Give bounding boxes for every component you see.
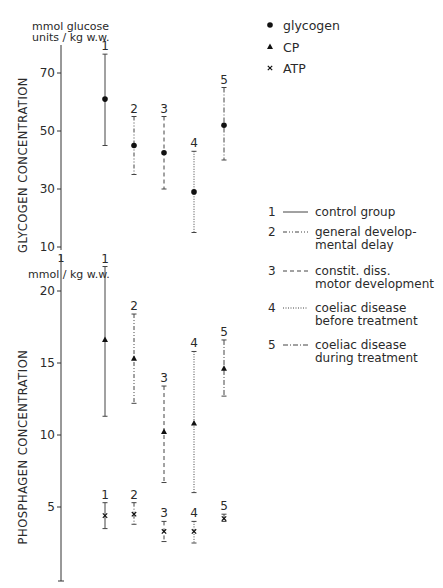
group-number-label: 3 (160, 506, 168, 520)
svg-text:constit. diss.: constit. diss. (315, 264, 390, 278)
svg-text:motor development: motor development (315, 277, 434, 291)
atp-point-group-5: 5 (220, 499, 228, 521)
glycogen-point-group-1: 1 (101, 39, 109, 145)
group-number-label: 5 (220, 325, 228, 339)
phosphagen-unit: mmol / kg w.w. (28, 268, 110, 281)
group-number-label: 5 (220, 499, 228, 513)
svg-text:during treatment: during treatment (315, 351, 418, 365)
group-number-label: 3 (160, 102, 168, 116)
group-number-label: 2 (130, 488, 138, 502)
tick-10: 10 (40, 240, 55, 254)
tick-5: 5 (47, 500, 55, 514)
legend-glycogen: glycogen (267, 18, 340, 33)
tick-10: 10 (40, 428, 55, 442)
cp-point-group-4: 4 (190, 336, 198, 492)
svg-text:2: 2 (268, 225, 276, 239)
svg-text:glycogen: glycogen (283, 18, 340, 33)
group-number-label: 4 (190, 336, 198, 350)
legend-atp: ATP (268, 61, 306, 76)
legend-group-4: 4coeliac diseasebefore treatment (268, 301, 418, 328)
group-number-label: 1 (101, 488, 109, 502)
symbol-legend: glycogenCPATP (267, 18, 340, 76)
glycogen-data: 123451 (58, 39, 228, 265)
legend-cp: CP (267, 40, 300, 55)
tick-70: 70 (40, 66, 55, 80)
svg-text:control group: control group (315, 205, 395, 219)
group-number-label: 4 (190, 136, 198, 150)
svg-text:general develop-: general develop- (315, 225, 417, 239)
group-number-label: 1 (101, 252, 109, 266)
svg-text:1: 1 (268, 205, 276, 219)
group-number-label: 2 (130, 102, 138, 116)
group-number-label: 1 (101, 39, 109, 53)
group-number-label: 3 (160, 371, 168, 385)
legend-group-2: 2general develop-mental delay (268, 225, 417, 252)
svg-text:coeliac disease: coeliac disease (315, 301, 406, 315)
legend-group-1: 1control group (268, 205, 395, 219)
svg-text:mental delay: mental delay (315, 238, 394, 252)
group-number-label: 4 (190, 506, 198, 520)
glycogen-point-group-4: 4 (190, 136, 198, 232)
cp-point-group-5: 5 (220, 325, 228, 396)
group-number-label: 2 (130, 299, 138, 313)
glycogen-panel: mmol glucose units / kg w.w. 70 50 30 10… (16, 20, 228, 265)
glycogen-point-group-3: 3 (160, 102, 168, 190)
atp-point-group-1: 1 (101, 488, 109, 529)
group-legend: 1control group2general develop-mental de… (268, 205, 434, 365)
svg-text:CP: CP (283, 40, 300, 55)
tick-15: 15 (40, 356, 55, 370)
svg-text:before treatment: before treatment (315, 314, 418, 328)
svg-text:4: 4 (268, 301, 276, 315)
glycogen-axis-title: GLYCOGEN CONCENTRATION (16, 77, 30, 253)
glycogen-unit-line2: units / kg w.w. (32, 31, 110, 44)
svg-text:5: 5 (268, 338, 276, 352)
atp-point-group-4: 4 (190, 506, 198, 543)
svg-text:3: 3 (268, 264, 276, 278)
cp-point-group-3: 3 (160, 371, 168, 482)
legend-group-3: 3constit. diss.motor development (268, 264, 434, 291)
tick-30: 30 (40, 182, 55, 196)
legend-group-5: 5coeliac diseaseduring treatment (268, 338, 418, 365)
phosphagen-ticks: 20 15 10 5 (40, 284, 61, 514)
group-number-label: 5 (220, 73, 228, 87)
tick-20: 20 (40, 284, 55, 298)
chart-figure: mmol glucose units / kg w.w. 70 50 30 10… (0, 0, 443, 588)
phosphagen-axis-title: PHOSPHAGEN CONCENTRATION (16, 350, 30, 545)
tick-50: 50 (40, 124, 55, 138)
atp-point-group-2: 2 (130, 488, 138, 525)
glycogen-ticks: 70 50 30 10 (40, 66, 61, 254)
cp-point-group-2: 2 (130, 299, 138, 403)
atp-point-group-3: 3 (160, 506, 168, 541)
phosphagen-panel: mmol / kg w.w. 20 15 10 5 PHOSPHAGEN CON… (16, 252, 228, 581)
glycogen-point-group-2: 2 (130, 102, 138, 175)
svg-text:ATP: ATP (283, 61, 306, 76)
phosphagen-data: 1234512345 (101, 252, 228, 543)
glycogen-point-group-5: 5 (220, 73, 228, 161)
svg-text:coeliac disease: coeliac disease (315, 338, 406, 352)
